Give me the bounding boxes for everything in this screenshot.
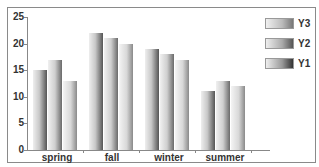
x-category-label: spring: [27, 152, 87, 163]
bar-summer-y2: [216, 81, 230, 150]
bar-fall-y3: [119, 44, 133, 150]
bar-summer-y3: [231, 86, 245, 150]
y-tick-label: 5: [8, 118, 24, 128]
legend-item-y2: Y2: [265, 38, 310, 49]
bar-spring-y1: [33, 70, 47, 150]
legend-label: Y2: [298, 38, 310, 49]
bar-summer-y1: [201, 91, 215, 150]
bar-winter-y3: [175, 60, 189, 150]
bar-spring-y2: [48, 60, 62, 150]
legend-item-y3: Y3: [265, 18, 310, 29]
y-tick-label: 15: [8, 65, 24, 75]
legend-swatch: [265, 58, 294, 69]
legend-swatch: [265, 18, 294, 29]
y-tick: [24, 44, 28, 45]
y-tick-label: 10: [8, 92, 24, 102]
legend-swatch: [265, 38, 294, 49]
bar-spring-y3: [63, 81, 77, 150]
y-tick: [24, 123, 28, 124]
y-tick-label: 20: [8, 39, 24, 49]
x-axis-line: [27, 150, 270, 151]
y-tick: [24, 97, 28, 98]
y-axis-line: [27, 17, 28, 151]
y-tick: [24, 17, 28, 18]
y-tick-label: 0: [8, 145, 24, 155]
bar-fall-y1: [89, 33, 103, 150]
y-tick-label: 25: [8, 12, 24, 22]
bar-winter-y2: [160, 54, 174, 150]
x-category-label: summer: [195, 152, 255, 163]
x-category-label: fall: [82, 152, 142, 163]
y-tick: [24, 70, 28, 71]
bar-winter-y1: [145, 49, 159, 150]
x-category-label: winter: [139, 152, 199, 163]
bar-fall-y2: [104, 38, 118, 150]
legend-label: Y1: [298, 58, 310, 69]
legend-label: Y3: [298, 18, 310, 29]
legend-item-y1: Y1: [265, 58, 310, 69]
